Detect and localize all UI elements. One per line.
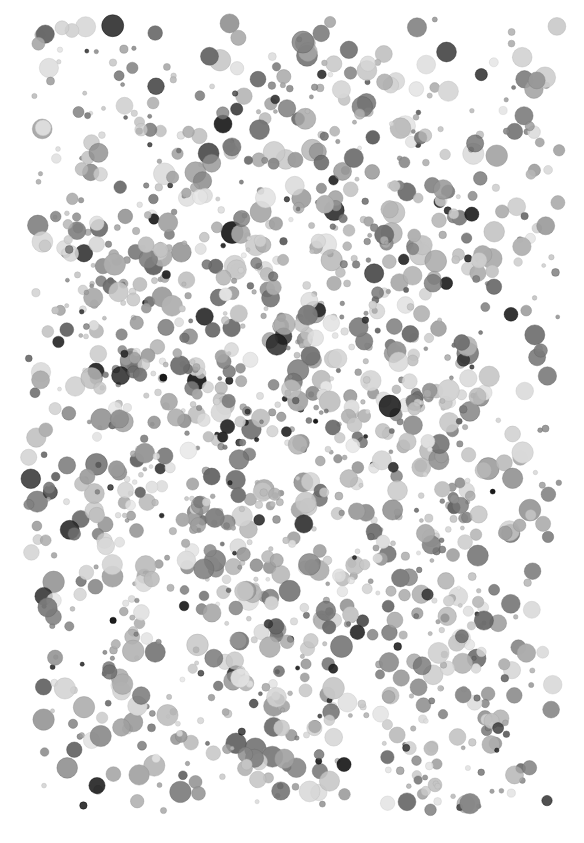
dot (399, 433, 416, 450)
dot (236, 376, 247, 387)
dot (503, 128, 509, 134)
dot (178, 272, 195, 289)
dot (470, 108, 475, 113)
dot (102, 554, 122, 574)
dot (438, 126, 443, 131)
dot (428, 632, 432, 636)
dot (158, 213, 177, 232)
dot (490, 489, 495, 494)
dot (373, 545, 379, 551)
dot (399, 157, 410, 168)
dot (213, 681, 223, 691)
dot (489, 584, 500, 595)
dot (416, 110, 421, 115)
dot (127, 293, 140, 306)
dot (460, 793, 480, 813)
dot (467, 135, 484, 152)
dot (231, 488, 246, 503)
dot (260, 420, 264, 424)
dot (548, 18, 566, 36)
dot (318, 714, 322, 718)
dot (210, 494, 215, 499)
dot (254, 235, 266, 247)
dot (236, 88, 253, 105)
dot (238, 728, 245, 735)
dot (266, 334, 287, 355)
dot (185, 292, 192, 299)
dot (153, 242, 168, 257)
dot (105, 241, 111, 247)
dot (319, 771, 339, 791)
dot (522, 761, 536, 775)
dot (96, 712, 107, 723)
dot (498, 526, 512, 540)
dot (90, 284, 94, 288)
dot (311, 84, 317, 90)
dot (235, 416, 246, 427)
dot (110, 617, 116, 623)
dot (205, 323, 220, 338)
dot (288, 691, 293, 696)
dot (324, 409, 328, 413)
dot (122, 513, 127, 518)
dot (131, 795, 144, 808)
dot (89, 507, 105, 523)
dot (125, 500, 135, 510)
dot (449, 376, 453, 380)
dot (62, 406, 76, 420)
dot (317, 70, 326, 79)
dot (230, 746, 234, 750)
dot (152, 754, 160, 762)
dot (221, 243, 226, 248)
dot (408, 402, 421, 415)
dot (340, 301, 345, 306)
dot (261, 313, 267, 319)
dot (254, 437, 258, 441)
dot (344, 67, 356, 79)
dot (433, 180, 453, 200)
dot (528, 72, 545, 89)
dot (190, 401, 196, 407)
dot (355, 177, 359, 181)
dot (182, 241, 187, 246)
dot (277, 70, 291, 84)
dot (267, 687, 287, 707)
dot (259, 637, 280, 658)
dot (216, 197, 220, 201)
dot (535, 138, 544, 147)
dot (189, 319, 193, 323)
dot (423, 472, 428, 477)
dot (179, 771, 188, 780)
dot (396, 767, 404, 775)
dot (340, 41, 357, 58)
dot (496, 418, 501, 423)
dot (481, 687, 495, 701)
dot (360, 559, 370, 569)
dot (403, 744, 410, 751)
dot (218, 432, 228, 442)
dot (424, 347, 428, 351)
dot (412, 458, 431, 477)
dot (552, 269, 560, 277)
dot (120, 607, 129, 616)
dot (452, 256, 460, 264)
dot (366, 258, 371, 263)
dot (239, 506, 244, 511)
dot (151, 371, 156, 376)
dot (246, 248, 250, 252)
dot (337, 757, 351, 771)
dot (295, 515, 313, 533)
dot (461, 233, 471, 243)
dot (268, 158, 279, 169)
dot (36, 179, 41, 184)
dot (481, 303, 490, 312)
dot (223, 138, 241, 156)
dot (65, 622, 74, 631)
dot (111, 640, 120, 649)
dot (73, 697, 94, 718)
dot (499, 659, 510, 670)
dot (90, 216, 105, 231)
dot (167, 694, 172, 699)
dot (346, 622, 350, 626)
dot (203, 154, 221, 172)
